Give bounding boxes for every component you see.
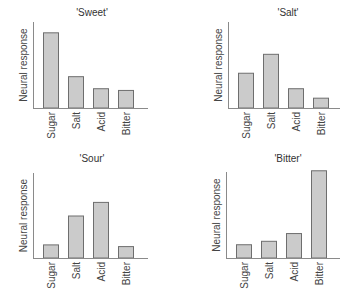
x-tick-label: Sugar (46, 111, 57, 138)
bar-acid (94, 202, 109, 258)
x-tick-label: Salt (71, 262, 82, 279)
bar-acid (287, 234, 302, 258)
x-tick-label: Acid (96, 262, 107, 281)
bar-acid (289, 89, 304, 108)
x-tick-label: Salt (71, 112, 82, 129)
x-tick-label: Bitter (314, 261, 325, 285)
x-tick-label: Acid (289, 262, 300, 281)
bar-sugar (237, 245, 252, 258)
x-tick-label: Salt (264, 262, 275, 279)
bar-sugar (239, 73, 254, 108)
bar-sugar (44, 245, 59, 258)
x-tick-label: Acid (291, 112, 302, 131)
bar-sugar (44, 33, 59, 108)
bar-salt (69, 216, 84, 258)
y-axis-label: Neural response (213, 28, 224, 102)
x-tick-label: Sugar (239, 261, 250, 288)
x-tick-label: Bitter (121, 111, 132, 135)
x-tick-label: Salt (266, 112, 277, 129)
y-axis-label: Neural response (18, 28, 29, 102)
bar-acid (94, 89, 109, 108)
chart-panel-sour: SugarSaltAcidBitter'Sour'Neural response (18, 153, 148, 289)
chart-panel-sweet: SugarSaltAcidBitter'Sweet'Neural respons… (18, 7, 148, 139)
bar-salt (262, 241, 277, 258)
chart-title: 'Sweet' (76, 7, 108, 18)
bar-bitter (312, 171, 327, 258)
bar-bitter (119, 90, 134, 108)
chart-panel-salt: SugarSaltAcidBitter'Salt'Neural response (213, 7, 340, 139)
y-axis-label: Neural response (18, 178, 29, 252)
y-axis-label: Neural response (211, 178, 222, 252)
chart-title: 'Bitter' (274, 153, 301, 164)
bar-salt (69, 77, 84, 108)
x-tick-label: Acid (96, 112, 107, 131)
chart-panel-bitter: SugarSaltAcidBitter'Bitter'Neural respon… (211, 153, 340, 289)
bar-salt (264, 54, 279, 108)
x-tick-label: Sugar (241, 111, 252, 138)
taste-response-figure: SugarSaltAcidBitter'Sweet'Neural respons… (0, 0, 351, 303)
bar-bitter (314, 98, 329, 108)
x-tick-label: Bitter (316, 111, 327, 135)
chart-title: 'Salt' (277, 7, 298, 18)
chart-title: 'Sour' (80, 153, 105, 164)
x-tick-label: Bitter (121, 261, 132, 285)
bar-bitter (119, 247, 134, 258)
x-tick-label: Sugar (46, 261, 57, 288)
